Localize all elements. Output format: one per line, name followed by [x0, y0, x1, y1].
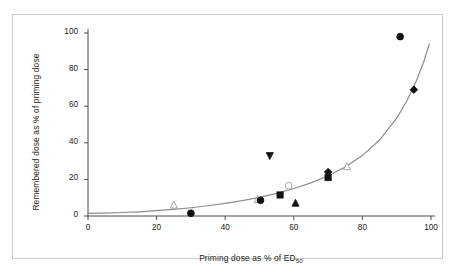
x-tick-label: 0	[77, 223, 99, 232]
x-tick-label: 80	[351, 223, 373, 232]
data-point-triangle-up-filled	[292, 199, 299, 206]
data-point-circle-filled	[397, 33, 404, 40]
data-point-triangle-down-filled	[266, 153, 273, 160]
y-tick-label: 40	[56, 137, 78, 146]
data-point-square-filled	[277, 192, 283, 198]
data-point-circle-filled	[257, 197, 264, 204]
x-tick-label: 100	[420, 223, 442, 232]
figure-container: Remembered dose as % of priming dose Pri…	[0, 0, 456, 273]
data-point-square-filled	[325, 174, 331, 180]
y-tick-label: 80	[56, 64, 78, 73]
x-tick-label: 40	[214, 223, 236, 232]
y-tick-label: 60	[56, 100, 78, 109]
data-point-circle-filled	[188, 210, 195, 217]
y-tick-label: 20	[56, 173, 78, 182]
data-point-triangle-up-open	[170, 201, 177, 208]
x-tick-label: 60	[283, 223, 305, 232]
y-tick-label: 100	[56, 27, 78, 36]
fit-curve-layer	[88, 44, 429, 213]
x-tick-label: 20	[146, 223, 168, 232]
figure-frame: Remembered dose as % of priming dose Pri…	[12, 14, 443, 259]
y-tick-label: 0	[56, 210, 78, 219]
fit-curve	[88, 44, 429, 213]
data-point-circle-open	[285, 182, 292, 189]
axes-layer	[84, 29, 435, 220]
data-points-layer	[170, 33, 417, 216]
